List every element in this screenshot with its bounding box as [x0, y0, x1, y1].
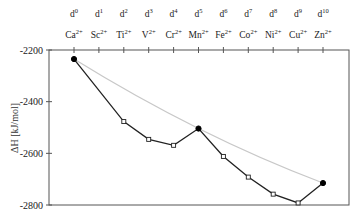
electron-config-label: d0 [70, 7, 78, 19]
ion-label: Mn2+ [188, 28, 208, 40]
electron-config-label: d5 [195, 7, 203, 19]
ion-label: V2+ [142, 28, 156, 40]
y-tick-label: -2600 [20, 148, 43, 159]
data-point-open [172, 143, 176, 147]
ion-label: Cu2+ [289, 28, 307, 40]
ion-label: Cr2+ [165, 28, 182, 40]
data-point-filled [320, 180, 325, 185]
data-point-open [221, 154, 225, 158]
data-point-open [147, 137, 151, 141]
ion-label: Ni2+ [265, 28, 282, 40]
ion-label: Sc2+ [91, 28, 108, 40]
y-tick-label: -2200 [20, 45, 43, 56]
electron-config-label: d8 [269, 7, 277, 19]
baseline-curve [74, 59, 323, 183]
data-point-open [122, 120, 126, 124]
electron-config-label: d4 [170, 7, 179, 19]
data-point-open [296, 201, 300, 205]
hydration-enthalpy-chart: d0Ca2+d1Sc2+d2Ti2+d3V2+d4Cr2+d5Mn2+d6Fe2… [0, 0, 359, 215]
ion-label: Co2+ [239, 28, 257, 40]
electron-config-label: d2 [120, 7, 128, 19]
electron-config-label: d3 [145, 7, 153, 19]
electron-config-label: d1 [95, 7, 103, 19]
data-point-filled [196, 126, 201, 131]
data-point-open [246, 175, 250, 179]
ion-label: Ca2+ [65, 28, 83, 40]
electron-config-label: d10 [317, 7, 328, 19]
data-point-open [271, 192, 275, 196]
data-point-filled [71, 56, 76, 61]
ion-label: Ti2+ [116, 28, 131, 40]
y-tick-label: -2400 [20, 96, 43, 107]
electron-config-label: d6 [219, 7, 228, 19]
ion-label: Fe2+ [215, 28, 232, 40]
baseline-series [74, 59, 323, 183]
electron-config-label: d7 [244, 7, 253, 19]
y-axis-title: ΔH [kJ/mol] [9, 103, 20, 153]
y-ticks: -2200-2400-2600-2800 [20, 45, 52, 211]
ion-label: Zn2+ [314, 28, 332, 40]
y-tick-label: -2800 [20, 200, 43, 211]
main-series [71, 56, 325, 204]
top-labels: d0Ca2+d1Sc2+d2Ti2+d3V2+d4Cr2+d5Mn2+d6Fe2… [65, 7, 332, 40]
electron-config-label: d9 [294, 7, 302, 19]
